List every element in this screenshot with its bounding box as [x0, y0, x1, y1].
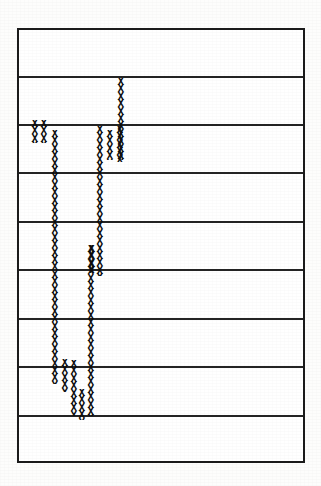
- grid-line: [19, 76, 303, 78]
- grid-line: [19, 269, 303, 271]
- grid-line: [19, 221, 303, 223]
- grid-line: [19, 318, 303, 320]
- chart-frame: X X X XX X X XX X X X X X X X X X X X X …: [17, 28, 305, 463]
- x-mark-column: X X X X X X X X X X X X: [115, 78, 126, 160]
- grid-line: [19, 124, 303, 126]
- x-mark-column: X X X X X: [59, 359, 70, 392]
- x-mark-column: X X X X X X X X X X X X X X X X X X X X …: [49, 130, 60, 384]
- x-mark-column: X X X X X X: [114, 126, 125, 162]
- x-mark-column: X X X X X X X X X: [68, 360, 79, 416]
- grid-line: [19, 415, 303, 417]
- grid-line: [19, 366, 303, 368]
- x-mark-column: X X X X X X X X X X X X X X X X X X X X …: [94, 126, 105, 276]
- plot-area: X X X XX X X XX X X X X X X X X X X X X …: [19, 30, 303, 461]
- x-mark-column: X X X X X: [104, 130, 115, 160]
- scanned-page-background: X X X XX X X XX X X X X X X X X X X X X …: [0, 0, 321, 486]
- grid-line: [19, 172, 303, 174]
